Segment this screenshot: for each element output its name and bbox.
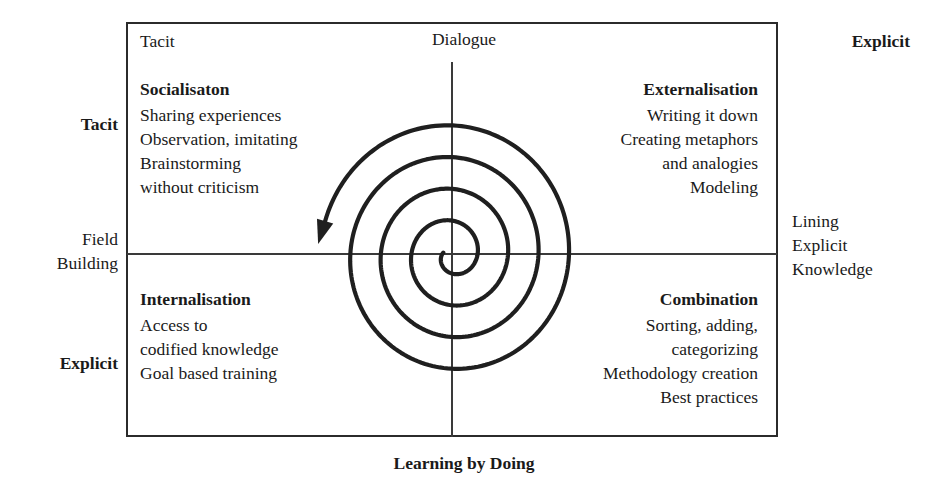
quadrant-externalisation-line-1: Creating metaphors bbox=[620, 128, 758, 152]
axis-label-dialogue: Dialogue bbox=[0, 28, 928, 52]
quadrant-externalisation-line-3: Modeling bbox=[620, 176, 758, 200]
axis-label-lining-line1: Lining bbox=[792, 210, 873, 234]
vertical-axis-divider bbox=[451, 62, 453, 437]
quadrant-combination-line-2: Methodology creation bbox=[603, 362, 758, 386]
quadrant-internalisation-line-2: Goal based training bbox=[140, 362, 279, 386]
quadrant-socialisaton-line-1: Observation, imitating bbox=[140, 128, 297, 152]
quadrant-internalisation: Internalisation Access to codified knowl… bbox=[140, 288, 279, 386]
quadrant-internalisation-line-1: codified knowledge bbox=[140, 338, 279, 362]
quadrant-externalisation-line-2: and analogies bbox=[620, 152, 758, 176]
axis-label-left-tacit: Tacit bbox=[0, 113, 118, 137]
horizontal-axis-divider bbox=[127, 253, 777, 255]
quadrant-socialisaton-line-0: Sharing experiences bbox=[140, 104, 297, 128]
axis-label-learning-by-doing: Learning by Doing bbox=[0, 452, 928, 476]
quadrant-socialisaton-line-3: without criticism bbox=[140, 176, 297, 200]
axis-label-lining-line3: Knowledge bbox=[792, 258, 873, 282]
quadrant-internalisation-line-0: Access to bbox=[140, 314, 279, 338]
axis-label-field-building: Field Building bbox=[0, 228, 118, 276]
quadrant-internalisation-title: Internalisation bbox=[140, 288, 279, 312]
axis-label-left-explicit: Explicit bbox=[0, 352, 118, 376]
quadrant-externalisation-title: Externalisation bbox=[620, 78, 758, 102]
quadrant-combination-line-0: Sorting, adding, bbox=[603, 314, 758, 338]
axis-label-lining-explicit-knowledge: Lining Explicit Knowledge bbox=[792, 210, 873, 282]
quadrant-combination-line-1: categorizing bbox=[603, 338, 758, 362]
quadrant-externalisation-line-0: Writing it down bbox=[620, 104, 758, 128]
quadrant-socialisaton: Socialisaton Sharing experiences Observa… bbox=[140, 78, 297, 200]
axis-label-field-building-line2: Building bbox=[0, 252, 118, 276]
quadrant-combination-title: Combination bbox=[603, 288, 758, 312]
quadrant-combination: Combination Sorting, adding, categorizin… bbox=[603, 288, 758, 410]
axis-label-lining-line2: Explicit bbox=[792, 234, 873, 258]
seci-diagram: Tacit Explicit Dialogue Learning by Doin… bbox=[0, 0, 928, 494]
axis-label-field-building-line1: Field bbox=[0, 228, 118, 252]
quadrant-externalisation: Externalisation Writing it down Creating… bbox=[620, 78, 758, 200]
quadrant-socialisaton-title: Socialisaton bbox=[140, 78, 297, 102]
quadrant-combination-line-3: Best practices bbox=[603, 386, 758, 410]
quadrant-socialisaton-line-2: Brainstorming bbox=[140, 152, 297, 176]
